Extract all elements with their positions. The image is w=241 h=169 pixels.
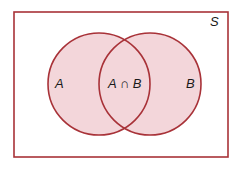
- venn-diagram: S A A ∩ B B: [0, 0, 241, 169]
- universe-label: S: [210, 14, 219, 29]
- set-a-label: A: [54, 76, 64, 91]
- set-b-label: B: [186, 76, 195, 91]
- intersection-label: A ∩ B: [107, 76, 142, 91]
